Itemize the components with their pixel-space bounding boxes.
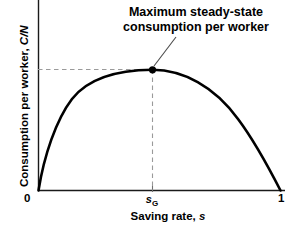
annotation-title-line-1: Maximum steady-state bbox=[98, 5, 294, 20]
consumption-curve bbox=[39, 70, 281, 191]
x-axis-label-symbol: s bbox=[199, 210, 205, 222]
peak-marker-dot bbox=[149, 66, 156, 73]
x-axis-label-text: Saving rate, bbox=[131, 210, 199, 222]
consumption-per-worker-chart: Maximum steady-state consumption per wor… bbox=[0, 0, 297, 229]
annotation-title: Maximum steady-state consumption per wor… bbox=[98, 5, 294, 35]
annotation-title-line-2: consumption per worker bbox=[98, 20, 294, 35]
y-axis-label: Consumption per worker, C/N bbox=[18, 27, 30, 187]
y-axis-label-text: Consumption per worker, bbox=[18, 45, 30, 187]
x-tick-golden-subscript: G bbox=[152, 199, 158, 208]
x-tick-label-golden-rule: sG bbox=[140, 193, 164, 208]
y-axis-label-symbol: C/N bbox=[18, 25, 30, 45]
x-axis-label: Saving rate, s bbox=[88, 210, 248, 222]
x-tick-label-one: 1 bbox=[278, 192, 284, 204]
annotation-leader-line bbox=[154, 37, 176, 66]
x-tick-label-zero: 0 bbox=[24, 192, 30, 204]
